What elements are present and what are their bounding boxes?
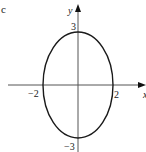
x-axis-label: x xyxy=(142,89,146,100)
x-axis-arrow-icon xyxy=(138,82,146,88)
corner-label: c xyxy=(1,3,6,15)
tick-y-neg: −3 xyxy=(64,141,75,152)
y-axis-arrow-icon xyxy=(75,4,81,12)
ellipse-diagram: c y x 3 −3 −2 2 xyxy=(0,0,146,152)
tick-x-pos: 2 xyxy=(114,89,119,100)
tick-y-pos: 3 xyxy=(71,21,76,32)
y-axis-label: y xyxy=(67,5,73,16)
tick-x-neg: −2 xyxy=(28,88,39,99)
diagram-canvas: c y x 3 −3 −2 2 xyxy=(0,0,146,152)
